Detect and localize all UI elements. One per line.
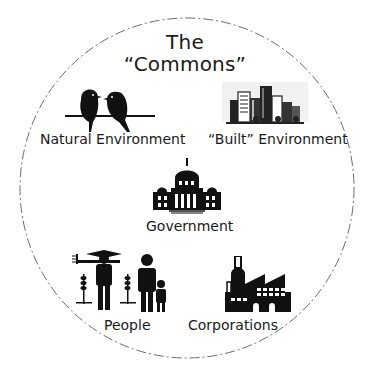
capitol-building-icon — [153, 158, 221, 214]
city-skyline-icon — [222, 82, 308, 128]
label-natural-environment: Natural Environment — [40, 131, 185, 147]
people-family-icon — [72, 250, 168, 314]
label-corporations: Corporations — [188, 317, 278, 333]
label-built-environment: “Built” Environment — [208, 131, 348, 147]
diagram-title-line2: “Commons” — [0, 52, 370, 76]
label-people: People — [104, 317, 151, 333]
birds-on-wire-icon — [65, 86, 155, 134]
label-government: Government — [146, 218, 233, 234]
factory-icon — [225, 256, 291, 312]
diagram-title-line1: The — [0, 30, 370, 54]
